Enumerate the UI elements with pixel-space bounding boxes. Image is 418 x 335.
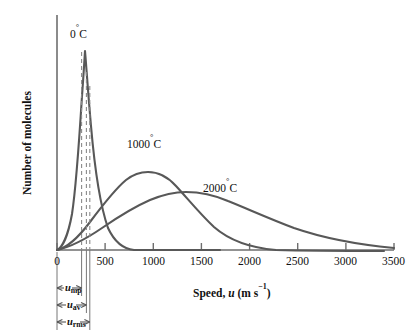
u-av-subscript: av (73, 303, 81, 312)
curve-label-0C-degree: ° (76, 22, 79, 32)
curve-label-0C-unit: C (79, 28, 87, 40)
y-axis-title: Number of molecules (22, 91, 34, 195)
x-axis-title-speed: Speed, (193, 287, 228, 299)
curve-label-2000C-degree: ° (226, 176, 229, 186)
curve-label-0C: 0°C (70, 29, 87, 41)
x-tick-label-3000: 3000 (326, 256, 365, 268)
x-axis-title-exponent: −1 (258, 282, 267, 291)
u-rms-symbol: u (67, 316, 73, 327)
x-tick-label-2000: 2000 (230, 256, 269, 268)
x-axis-title-units-close: ) (267, 287, 271, 299)
x-tick-label-1000: 1000 (134, 256, 173, 268)
x-tick-label-500: 500 (89, 256, 121, 268)
u-mp-symbol: u (65, 282, 71, 293)
x-tick-label-3500: 3500 (374, 256, 413, 268)
x-axis-ticks (57, 243, 394, 250)
u-mp-subscript: mp (71, 286, 82, 295)
u-av-label: uav (67, 300, 81, 311)
curve-label-2000C-value: 2000 (203, 182, 226, 194)
curve-label-2000C-unit: C (229, 182, 237, 194)
curve-label-1000C-value: 1000 (127, 138, 150, 150)
x-tick-label-2500: 2500 (278, 256, 317, 268)
x-axis-title: Speed, u (m s−1) (193, 286, 271, 299)
u-rms-label: urms (67, 317, 86, 328)
curve-label-2000C: 2000°C (203, 183, 237, 195)
u-mp-label: ump (65, 283, 82, 294)
curve-label-1000C-unit: C (153, 138, 161, 150)
u-av-symbol: u (67, 299, 73, 310)
curve-label-1000C-degree: ° (150, 132, 153, 142)
maxwell-boltzmann-speed-distribution-figure: Number of molecules Speed, u (m s−1) 0 5… (0, 0, 418, 335)
x-tick-label-0: 0 (47, 256, 67, 268)
curve-label-1000C: 1000°C (127, 139, 161, 151)
chart-canvas (0, 0, 418, 335)
x-tick-label-1500: 1500 (182, 256, 221, 268)
u-rms-subscript: rms (73, 320, 86, 329)
curve-label-0C-value: 0 (70, 28, 76, 40)
x-axis-title-units-open: (m s (235, 287, 259, 299)
